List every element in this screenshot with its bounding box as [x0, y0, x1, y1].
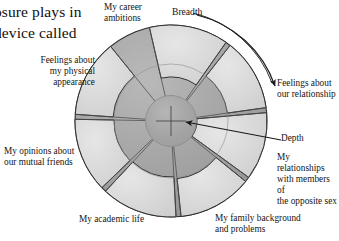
label-family-background: My family background and problems [215, 213, 301, 235]
label-feelings-relationship: Feelings about our relationship [277, 78, 339, 100]
label-academic-life: My academic life [79, 214, 144, 225]
label-depth: Depth [281, 133, 304, 144]
label-physical-appearance: Feelings about my physical appearance [17, 55, 95, 88]
label-opposite-sex: My relationships with members of the opp… [277, 152, 339, 207]
page-body-text: osure plays in device called [0, 2, 82, 43]
label-mutual-friends: My opinions about our mutual friends [4, 146, 74, 168]
label-breadth: Breadth [172, 6, 202, 17]
label-career-ambitions: My career ambitions [104, 2, 142, 24]
